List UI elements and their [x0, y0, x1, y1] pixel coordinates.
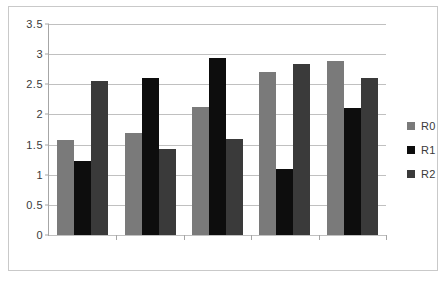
bar-r2-1: [91, 81, 108, 235]
bar-r1-3: [209, 58, 226, 235]
bar-r2-4: [293, 64, 310, 235]
y-tick-mark: [45, 114, 49, 115]
y-axis-tick-label: 2.5: [26, 78, 43, 90]
y-tick-mark: [45, 54, 49, 55]
x-tick-mark: [184, 235, 185, 240]
legend-item-r1[interactable]: R1: [407, 138, 447, 162]
bar-r1-2: [142, 78, 159, 235]
y-gridline: [49, 235, 386, 236]
legend-swatch-icon: [407, 146, 415, 154]
bar-r1-4: [276, 169, 293, 235]
y-tick-mark: [45, 24, 49, 25]
x-tick-mark: [116, 235, 117, 240]
bar-group: [327, 24, 378, 235]
y-tick-mark: [45, 174, 49, 175]
y-axis-tick-label: 2: [36, 108, 43, 120]
y-tick-mark: [45, 144, 49, 145]
bar-r0-5: [327, 61, 344, 235]
x-tick-mark: [251, 235, 252, 240]
bar-group: [259, 24, 310, 235]
y-tick-mark: [45, 235, 49, 236]
bar-r1-5: [344, 108, 361, 235]
y-axis-tick-label: 3: [36, 48, 43, 60]
chart-frame: 00.511.522.533.5 R0R1R2: [8, 6, 438, 271]
y-tick-mark: [45, 84, 49, 85]
bar-group: [192, 24, 243, 235]
legend-label: R1: [421, 144, 436, 156]
bar-r2-2: [159, 149, 176, 235]
legend-label: R0: [421, 120, 436, 132]
legend-item-r0[interactable]: R0: [407, 114, 447, 138]
bar-r0-3: [192, 107, 209, 235]
y-axis-tick-label: 3.5: [26, 18, 43, 30]
bar-r2-3: [226, 139, 243, 235]
bar-r2-5: [361, 78, 378, 235]
bar-group: [125, 24, 176, 235]
bar-group: [57, 24, 108, 235]
y-axis-tick-label: 1.5: [26, 139, 43, 151]
y-axis-tick-label: 0.5: [26, 199, 43, 211]
chart-legend: R0R1R2: [407, 114, 447, 186]
x-tick-mark: [386, 235, 387, 240]
legend-swatch-icon: [407, 170, 415, 178]
legend-item-r2[interactable]: R2: [407, 162, 447, 186]
legend-swatch-icon: [407, 122, 415, 130]
bar-r1-1: [74, 161, 91, 235]
y-axis-tick-label: 0: [36, 229, 43, 241]
bar-r0-2: [125, 133, 142, 235]
legend-label: R2: [421, 168, 436, 180]
bar-r0-4: [259, 72, 276, 235]
y-axis-tick-label: 1: [36, 169, 43, 181]
x-tick-mark: [319, 235, 320, 240]
bar-r0-1: [57, 140, 74, 235]
y-tick-mark: [45, 204, 49, 205]
plot-area: 00.511.522.533.5: [48, 24, 386, 236]
